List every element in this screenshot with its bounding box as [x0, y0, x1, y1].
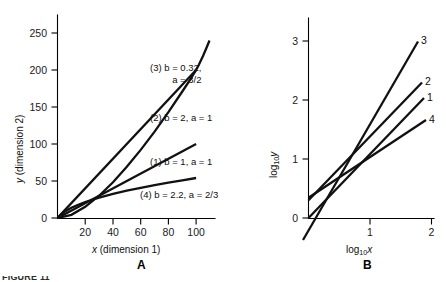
panel-a-annotation-curve-4: (4) b = 2.2, a = 2/3 [140, 189, 218, 200]
panel-b-x-axis-title-sub: 10 [359, 248, 367, 257]
panel-a-x-axis-title-rest: (dimension 1) [97, 244, 160, 255]
panel-a-y-axis-title-var: y [14, 178, 25, 183]
panel-b-endpoint-label-2: 2 [425, 75, 431, 87]
svg-text:1: 1 [292, 153, 298, 165]
svg-text:100: 100 [187, 226, 205, 238]
panel-b-y-axis-title-main: log [268, 165, 279, 178]
panel-b-plot: 0 1 2 3 1 2 [250, 0, 446, 250]
panel-b-line-4 [309, 120, 427, 198]
panel-a-x-axis-title: x (dimension 1) [92, 244, 160, 255]
figure-root: 0 50 100 150 200 250 20 40 60 80 100 [0, 0, 446, 282]
panel-a-annotation-curve-1-text: (1) b = 1, a = 1 [150, 156, 212, 167]
panel-b-line-1 [309, 98, 425, 218]
panel-a-y-tick-labels: 0 50 100 150 200 250 [29, 27, 47, 224]
figure-caption-text: FIGURE 11 [2, 276, 50, 282]
panel-a: 0 50 100 150 200 250 20 40 60 80 100 [0, 0, 250, 282]
panel-a-annotation-curve-1: (1) b = 1, a = 1 [150, 156, 212, 167]
svg-text:250: 250 [29, 27, 47, 39]
panel-a-plot: 0 50 100 150 200 250 20 40 60 80 100 [0, 0, 250, 250]
panel-b-line-3 [303, 42, 418, 241]
svg-text:80: 80 [163, 226, 175, 238]
panel-b-letter: B [363, 258, 372, 272]
panel-a-y-ticks [52, 33, 58, 218]
panel-b-y-axis-title-sub: 10 [272, 157, 281, 165]
panel-b-x-axis-title-main: log [346, 244, 359, 255]
panel-b-y-tick-labels: 0 1 2 3 [292, 35, 298, 224]
panel-b-endpoint-label-1: 1 [427, 91, 433, 103]
panel-b-line-2 [309, 83, 423, 201]
svg-text:150: 150 [29, 101, 47, 113]
svg-text:50: 50 [35, 175, 47, 187]
svg-text:1: 1 [367, 226, 373, 238]
panel-a-annotation-curve-3-line1: (3) b = 0.32, [150, 62, 202, 74]
panel-b-y-axis-title-var: y [268, 152, 279, 157]
panel-b-y-axis-title: log10y [268, 152, 279, 178]
svg-text:0: 0 [292, 212, 298, 224]
panel-b-y-ticks [303, 41, 309, 218]
panel-a-y-axis-title: y (dimension 2) [14, 115, 25, 183]
panel-a-x-ticks [85, 219, 196, 225]
panel-b-x-axis-title-var: x [367, 244, 372, 255]
svg-text:200: 200 [29, 64, 47, 76]
panel-b-x-tick-labels: 1 2 [367, 226, 435, 238]
panel-a-annotation-curve-2-text: (2) b = 2, a = 1 [150, 112, 212, 123]
figure-caption-strip: FIGURE 11 [0, 276, 446, 282]
panel-b-endpoint-label-4: 4 [429, 113, 435, 125]
svg-text:100: 100 [29, 138, 47, 150]
svg-text:3: 3 [292, 35, 298, 47]
svg-text:40: 40 [107, 226, 119, 238]
svg-text:2: 2 [429, 226, 435, 238]
panel-b-x-ticks [370, 219, 432, 225]
svg-text:60: 60 [135, 226, 147, 238]
svg-text:0: 0 [41, 212, 47, 224]
panel-b-x-axis-title: log10x [346, 244, 372, 255]
panel-a-annotation-curve-3-line2: a = 3/2 [150, 74, 202, 86]
panel-b: 0 1 2 3 1 2 [250, 0, 446, 282]
panel-a-annotation-curve-2: (2) b = 2, a = 1 [150, 112, 212, 123]
svg-text:2: 2 [292, 94, 298, 106]
panel-a-annotation-curve-4-text: (4) b = 2.2, a = 2/3 [140, 189, 218, 200]
panel-a-x-tick-labels: 20 40 60 80 100 [79, 226, 205, 238]
svg-text:20: 20 [79, 226, 91, 238]
panel-a-y-axis-title-rest: (dimension 2) [14, 115, 25, 178]
panel-a-letter: A [137, 258, 146, 272]
panel-a-annotation-curve-3: (3) b = 0.32, a = 3/2 [150, 62, 202, 85]
panel-b-endpoint-label-3: 3 [421, 34, 427, 46]
